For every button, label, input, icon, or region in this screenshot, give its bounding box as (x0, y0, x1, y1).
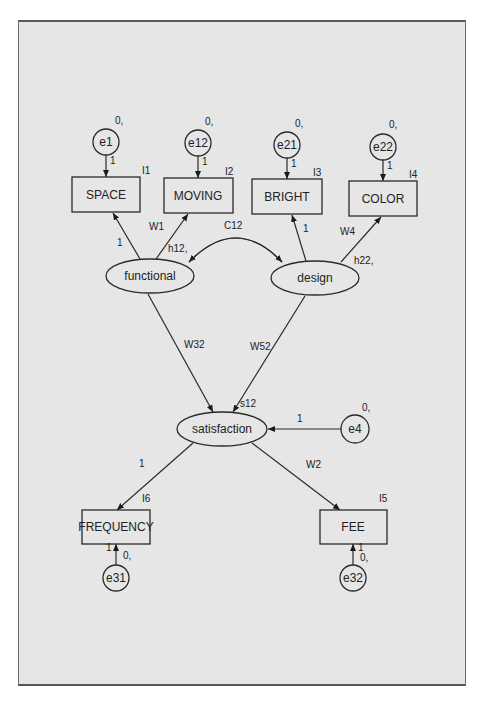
svg-text:e22: e22 (373, 140, 393, 154)
svg-text:FREQUENCY: FREQUENCY (78, 520, 153, 534)
svg-text:1: 1 (202, 156, 208, 167)
svg-text:0,: 0, (205, 116, 213, 127)
svg-text:e12: e12 (188, 136, 208, 150)
svg-text:e1: e1 (99, 135, 113, 149)
svg-text:e4: e4 (348, 422, 362, 436)
error-e4[interactable]: e4 0, 1 (297, 402, 370, 443)
path-label-functional-space: 1 (117, 237, 123, 248)
svg-text:0,: 0, (362, 402, 370, 413)
latent-satisfaction[interactable]: satisfaction s12 (177, 398, 267, 446)
error-e32[interactable]: e32 0, 1 (340, 542, 368, 591)
svg-text:I3: I3 (313, 167, 322, 178)
observed-frequency[interactable]: FREQUENCY I6 (78, 493, 153, 544)
path-label-design-color: W4 (340, 226, 355, 237)
error-e22[interactable]: e22 0, 1 (370, 119, 397, 171)
svg-text:1: 1 (110, 155, 116, 166)
covariance-label-c12: C12 (224, 220, 243, 231)
path-label-design-bright: 1 (303, 223, 309, 234)
error-e12[interactable]: e12 0, 1 (185, 116, 213, 167)
svg-text:I1: I1 (142, 165, 151, 176)
svg-text:0,: 0, (295, 118, 303, 129)
svg-text:1: 1 (291, 158, 297, 169)
svg-text:1: 1 (358, 542, 364, 553)
svg-text:1: 1 (297, 413, 303, 424)
svg-text:I6: I6 (142, 493, 151, 504)
svg-text:satisfaction: satisfaction (192, 422, 252, 436)
svg-text:1: 1 (106, 542, 112, 553)
path-label-design-satisfaction: W52 (250, 341, 271, 352)
svg-text:h22,: h22, (354, 255, 373, 266)
svg-text:COLOR: COLOR (362, 192, 405, 206)
latent-design[interactable]: design h22, (271, 255, 373, 295)
error-e31[interactable]: e31 0, 1 (103, 542, 131, 591)
error-e21[interactable]: e21 0, 1 (274, 118, 303, 169)
path-label-functional-satisfaction: W32 (184, 339, 205, 350)
svg-text:0,: 0, (123, 550, 131, 561)
sem-diagram: SPACE I1 MOVING I2 BRIGHT I3 COLOR I4 FR… (0, 0, 483, 703)
svg-text:FEE: FEE (341, 520, 364, 534)
svg-text:0,: 0, (389, 119, 397, 130)
svg-text:h12,: h12, (168, 243, 187, 254)
svg-text:SPACE: SPACE (86, 188, 126, 202)
path-design-bright (292, 215, 306, 261)
observed-space[interactable]: SPACE I1 (72, 165, 151, 212)
observed-fee[interactable]: FEE I5 (320, 493, 388, 544)
svg-text:e32: e32 (343, 571, 363, 585)
path-satisfaction-fee (252, 443, 340, 510)
svg-text:0,: 0, (115, 115, 123, 126)
path-design-satisfaction (233, 296, 305, 412)
svg-text:s12: s12 (240, 398, 257, 409)
latent-functional[interactable]: functional h12, (106, 243, 194, 293)
svg-text:0,: 0, (360, 552, 368, 563)
svg-text:MOVING: MOVING (174, 189, 223, 203)
path-label-satisfaction-fee: W2 (306, 459, 321, 470)
observed-moving[interactable]: MOVING I2 (164, 166, 234, 213)
path-label-satisfaction-frequency: 1 (139, 458, 145, 469)
svg-text:I2: I2 (225, 166, 234, 177)
svg-text:I4: I4 (409, 169, 418, 180)
svg-text:I5: I5 (379, 493, 388, 504)
svg-text:design: design (297, 271, 332, 285)
path-functional-satisfaction (148, 294, 213, 412)
svg-text:functional: functional (124, 269, 175, 283)
svg-text:e21: e21 (277, 138, 297, 152)
svg-text:BRIGHT: BRIGHT (264, 190, 310, 204)
svg-text:e31: e31 (106, 571, 126, 585)
svg-text:1: 1 (387, 160, 393, 171)
path-satisfaction-frequency (117, 443, 193, 510)
path-functional-space (113, 213, 140, 259)
error-e1[interactable]: e1 0, 1 (93, 115, 123, 166)
path-label-functional-moving: W1 (149, 221, 164, 232)
